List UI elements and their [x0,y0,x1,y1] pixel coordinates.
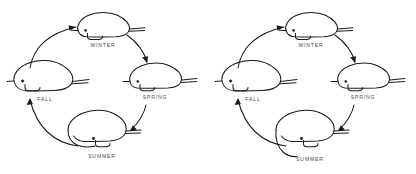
season-label-spring: SPRING [143,94,168,100]
season-label-summer: SUMMER [88,153,116,159]
season-label-winter: WINTER [90,42,115,48]
cycle-diagram-left: WINTER SPRING SUMMER [0,0,208,174]
organism-fall [7,60,89,91]
season-label-summer: SUMMER [296,156,324,162]
season-label-spring: SPRING [351,94,376,100]
season-label-winter: WINTER [298,42,323,48]
organism-summer [276,110,349,156]
figure-canvas: WINTER SPRING SUMMER [0,0,416,174]
organism-spring [331,63,405,91]
arrow-spring-to-summer [338,105,354,131]
arrow-winter-to-spring [335,35,356,63]
arrow-spring-to-summer [130,105,146,131]
arrow-winter-to-spring [127,35,148,63]
organism-summer [68,110,141,147]
organism-winter [279,12,353,39]
organism-fall [215,60,297,91]
cycle-diagram-right: WINTER SPRING SUMMER [208,0,416,174]
season-label-fall: FALL [37,96,52,102]
season-label-fall: FALL [245,96,260,102]
organism-spring [123,63,197,91]
organism-winter [71,12,145,39]
